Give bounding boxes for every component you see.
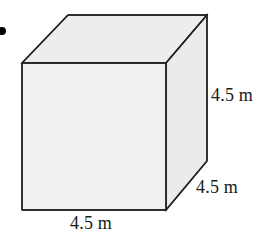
bullet-marker bbox=[0, 27, 6, 35]
dimension-label-height: 4.5 m bbox=[211, 86, 253, 104]
cube-drawing bbox=[0, 0, 276, 238]
dimension-label-depth: 4.5 m bbox=[196, 178, 238, 196]
dimension-label-width: 4.5 m bbox=[70, 214, 112, 232]
cube-front-face bbox=[22, 63, 166, 210]
cube-diagram-figure: 4.5 m 4.5 m 4.5 m bbox=[0, 0, 276, 238]
